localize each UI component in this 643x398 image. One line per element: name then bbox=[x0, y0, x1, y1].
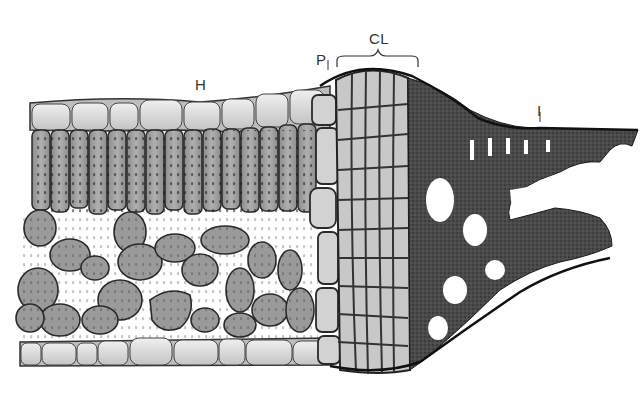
lower-epidermis bbox=[20, 338, 330, 366]
cl-bracket bbox=[337, 50, 418, 67]
palisade-layer bbox=[32, 124, 316, 214]
label-p: P bbox=[316, 51, 327, 68]
label-cl: CL bbox=[369, 30, 389, 47]
leaf-cross-section-diagram: H P CL I bbox=[0, 0, 643, 398]
label-i: I bbox=[537, 102, 542, 119]
label-h: H bbox=[195, 76, 206, 93]
collenchyma-tissue bbox=[336, 68, 410, 374]
